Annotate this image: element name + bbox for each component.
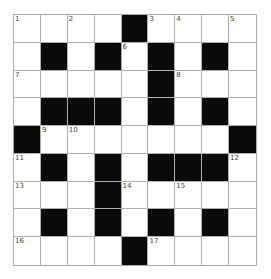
crossword-cell[interactable] [175,98,202,126]
clue-number: 9 [42,126,46,135]
crossword-cell[interactable] [175,43,202,71]
black-square [148,71,175,99]
crossword-cell[interactable]: 2 [68,15,95,43]
crossword-cell[interactable] [202,237,229,265]
crossword-cell[interactable] [175,126,202,154]
crossword-cell[interactable]: 9 [41,126,68,154]
crossword-cell[interactable]: 6 [122,43,149,71]
crossword-cell[interactable]: 12 [229,154,256,182]
crossword-cell[interactable] [14,98,41,126]
crossword-cell[interactable] [68,71,95,99]
crossword-cell[interactable]: 8 [175,71,202,99]
crossword-cell[interactable]: 17 [148,237,175,265]
black-square [68,98,95,126]
clue-number: 13 [15,182,24,191]
crossword-cell[interactable] [122,154,149,182]
crossword-cell[interactable]: 11 [14,154,41,182]
crossword-cell[interactable] [202,71,229,99]
clue-number: 4 [176,15,180,24]
clue-number: 16 [15,237,24,246]
crossword-cell[interactable] [122,71,149,99]
crossword-cell[interactable] [175,209,202,237]
crossword-cell[interactable] [229,71,256,99]
clue-number: 14 [123,182,132,191]
black-square [229,126,256,154]
crossword-grid: 1234567891011121314151617 [13,14,257,266]
crossword-cell[interactable]: 1 [14,15,41,43]
crossword-cell[interactable] [68,154,95,182]
crossword-cell[interactable] [122,98,149,126]
clue-number: 17 [149,237,158,246]
crossword-cell[interactable]: 13 [14,182,41,210]
crossword-cell[interactable] [229,182,256,210]
black-square [148,154,175,182]
black-square [41,43,68,71]
crossword-cell[interactable] [202,15,229,43]
crossword-cell[interactable] [95,126,122,154]
crossword-cell[interactable] [202,126,229,154]
crossword-cell[interactable] [202,182,229,210]
crossword-cell[interactable] [41,15,68,43]
clue-number: 5 [230,15,234,24]
crossword-cell[interactable]: 3 [148,15,175,43]
crossword-cell[interactable]: 10 [68,126,95,154]
clue-number: 10 [69,126,78,135]
black-square [175,154,202,182]
clue-number: 8 [176,71,180,80]
crossword-cell[interactable]: 4 [175,15,202,43]
crossword-cell[interactable] [41,237,68,265]
clue-number: 15 [176,182,185,191]
clue-number: 7 [15,71,19,80]
crossword-cell[interactable] [68,209,95,237]
black-square [202,43,229,71]
black-square [148,209,175,237]
crossword-cell[interactable] [229,98,256,126]
crossword-cell[interactable] [229,209,256,237]
black-square [148,43,175,71]
crossword-cell[interactable] [95,237,122,265]
black-square [41,98,68,126]
black-square [122,15,149,43]
black-square [202,209,229,237]
clue-number: 12 [230,154,239,163]
crossword-cell[interactable] [122,126,149,154]
crossword-cell[interactable] [41,71,68,99]
black-square [202,98,229,126]
crossword-cell[interactable] [95,15,122,43]
clue-number: 3 [149,15,153,24]
clue-number: 1 [15,15,19,24]
crossword-cell[interactable] [229,237,256,265]
crossword-cell[interactable]: 5 [229,15,256,43]
crossword-cell[interactable] [122,209,149,237]
clue-number: 6 [123,43,127,52]
crossword-cell[interactable] [95,71,122,99]
crossword-cell[interactable] [68,43,95,71]
crossword-cell[interactable]: 7 [14,71,41,99]
black-square [14,126,41,154]
black-square [95,98,122,126]
black-square [41,209,68,237]
black-square [148,98,175,126]
black-square [95,182,122,210]
black-square [41,154,68,182]
clue-number: 2 [69,15,73,24]
crossword-cell[interactable] [14,43,41,71]
crossword-cell[interactable] [68,182,95,210]
crossword-cell[interactable] [14,209,41,237]
crossword-cell[interactable]: 14 [122,182,149,210]
crossword-cell[interactable] [41,182,68,210]
black-square [95,43,122,71]
crossword-cell[interactable] [148,126,175,154]
black-square [122,237,149,265]
crossword-cell[interactable]: 16 [14,237,41,265]
crossword-cell[interactable] [68,237,95,265]
crossword-cell[interactable] [229,43,256,71]
crossword-cell[interactable]: 15 [175,182,202,210]
clue-number: 11 [15,154,24,163]
black-square [95,154,122,182]
crossword-cell[interactable] [175,237,202,265]
black-square [95,209,122,237]
crossword-cell[interactable] [148,182,175,210]
black-square [202,154,229,182]
